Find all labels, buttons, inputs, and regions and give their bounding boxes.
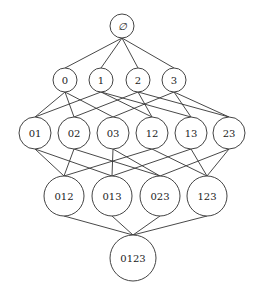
node-label: 12 <box>146 128 159 139</box>
node-label: 23 <box>223 128 236 139</box>
node-label: 13 <box>185 128 198 139</box>
edge-02-023 <box>74 149 160 176</box>
node-label: 123 <box>197 191 216 202</box>
node-12: 12 <box>136 117 168 149</box>
node-label: ∅ <box>118 21 128 32</box>
node-label: 3 <box>171 75 177 86</box>
node-label: 03 <box>107 128 120 139</box>
edge-023-0123 <box>133 216 160 235</box>
edge-23-023 <box>160 149 229 176</box>
node-13: 13 <box>175 117 207 149</box>
diagram-svg: ∅01230102031213230120130231230123 <box>0 0 259 292</box>
node-label: 01 <box>29 128 42 139</box>
node-0: 0 <box>53 68 77 92</box>
node-23: 23 <box>213 117 245 149</box>
edge-03-023 <box>113 149 160 176</box>
node-label: 0123 <box>120 253 145 264</box>
edge-12-012 <box>64 149 152 176</box>
edge-1-01 <box>35 92 101 117</box>
node-label: 023 <box>150 191 169 202</box>
node-label: 013 <box>102 191 121 202</box>
node-013: 013 <box>92 176 132 216</box>
node-123: 123 <box>187 176 227 216</box>
edge-03-013 <box>112 149 113 176</box>
edge-01-013 <box>35 149 112 176</box>
node-023: 023 <box>140 176 180 216</box>
node-2: 2 <box>126 68 150 92</box>
node-empty: ∅ <box>110 14 134 38</box>
node-0123: 0123 <box>110 235 156 281</box>
edge-1-13 <box>101 92 191 117</box>
edge-0-01 <box>35 92 65 117</box>
edge-01-012 <box>35 149 64 176</box>
node-label: 012 <box>54 191 73 202</box>
node-012: 012 <box>44 176 84 216</box>
nodes-layer: ∅01230102031213230120130231230123 <box>19 14 245 281</box>
edge-123-0123 <box>133 216 207 235</box>
node-label: 2 <box>135 75 141 86</box>
node-02: 02 <box>58 117 90 149</box>
node-1: 1 <box>89 68 113 92</box>
node-label: 1 <box>98 75 104 86</box>
node-3: 3 <box>162 68 186 92</box>
edge-2-23 <box>138 92 229 117</box>
node-label: 02 <box>68 128 81 139</box>
node-01: 01 <box>19 117 51 149</box>
edge-empty-1 <box>101 38 122 68</box>
node-label: 0 <box>62 75 68 86</box>
edge-empty-0 <box>65 38 122 68</box>
hasse-diagram: ∅01230102031213230120130231230123 <box>0 0 259 292</box>
node-03: 03 <box>97 117 129 149</box>
